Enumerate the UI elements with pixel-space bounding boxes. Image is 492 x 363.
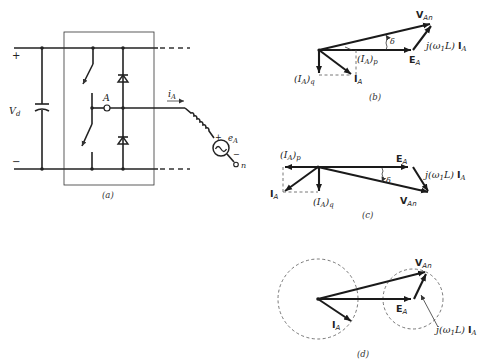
caption-d: (d): [357, 349, 369, 359]
dc-voltage-label: Vd: [9, 105, 21, 118]
phasor-v-an: [318, 167, 428, 192]
label-v-an: VAn: [416, 9, 433, 22]
panel-a-circuit: + − Vd A iA + − eA n (a): [9, 32, 246, 200]
panel-d-phasor: VAn EA IA j(ω1L) IA (d): [278, 257, 477, 359]
label-v-an: VAn: [415, 257, 432, 270]
label-e-a: EA: [409, 54, 421, 67]
label-i-ap: (IA)p: [280, 149, 301, 162]
phasor-i-a: [285, 167, 318, 191]
label-jwl-ia: j(ω1L) IA: [424, 40, 467, 53]
upper-diode: [118, 46, 128, 108]
label-v-an: VAn: [400, 195, 417, 208]
caption-b: (b): [369, 92, 381, 102]
current-label: iA: [168, 88, 176, 101]
source-plus-sign: +: [215, 133, 222, 142]
panel-b-phasor: VAn EA IA δ (IA)p (IA)q j(ω1L) IA (b): [294, 9, 467, 102]
upper-switch: [83, 46, 95, 108]
label-i-aq: (IA)q: [313, 196, 334, 209]
delta-angle-arc-lower: [386, 43, 387, 50]
delta-angle-arc: [386, 35, 387, 43]
lower-diode: [118, 108, 128, 171]
leader-line: [421, 295, 438, 327]
inductor: [185, 108, 214, 138]
figure-canvas: + − Vd A iA + − eA n (a) VAn EA IA δ (IA…: [0, 0, 492, 363]
phasor-i-a: [318, 299, 351, 321]
phasor-v-an: [319, 24, 430, 50]
neutral-label: n: [241, 161, 246, 170]
delta-angle-arc: [382, 174, 383, 182]
label-i-ap: (IA)p: [357, 53, 378, 66]
source-minus-sign: −: [233, 150, 240, 159]
label-i-a: IA: [332, 319, 341, 332]
node-a-label: A: [102, 92, 110, 103]
phasor-v-an: [318, 272, 425, 299]
label-delta: δ: [390, 37, 395, 46]
label-i-a: IA: [270, 188, 279, 201]
label-i-a: IA: [354, 73, 363, 86]
label-jwl-ia: j(ω1L) IA: [434, 324, 477, 337]
source-label: eA: [228, 133, 238, 145]
label-delta: δ: [386, 176, 391, 185]
label-i-aq: (IA)q: [294, 73, 315, 86]
node-a-terminal: [104, 105, 110, 111]
caption-a: (a): [102, 190, 114, 200]
positive-sign: +: [12, 50, 20, 61]
label-jwl-ia: j(ω1L) IA: [423, 169, 466, 182]
neutral-terminal: [234, 162, 239, 167]
label-e-a: EA: [396, 153, 408, 166]
phasor-jwl-ia: [414, 274, 426, 299]
caption-c: (c): [362, 210, 373, 220]
lower-switch: [82, 108, 94, 171]
negative-sign: −: [12, 156, 20, 167]
delta-angle-arc-upper: [382, 168, 383, 174]
phasor-i-a: [319, 50, 351, 74]
dc-link-capacitor: [35, 46, 49, 171]
label-e-a: EA: [396, 303, 408, 316]
panel-c-phasor: (IA)p EA j(ω1L) IA δ IA (IA)q VAn (c): [270, 149, 466, 220]
